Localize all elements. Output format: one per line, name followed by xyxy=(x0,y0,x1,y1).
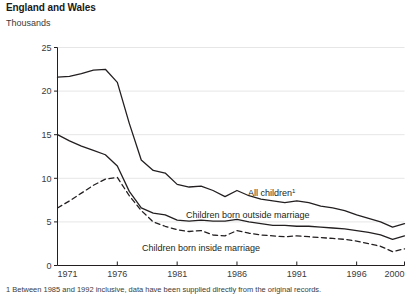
chart-footnote: 1 Between 1985 and 1992 inclusive, data … xyxy=(6,285,419,294)
series-label-all-children: All children1 xyxy=(248,188,296,199)
y-axis-tick-label: 10 xyxy=(41,174,51,184)
y-axis-tick-label: 25 xyxy=(41,43,51,53)
x-axis-tick-labels: 1971197619811986199119962000 xyxy=(58,269,405,279)
series-inline-labels: All children1Children born outside marri… xyxy=(142,188,310,254)
x-axis-tick-label: 1991 xyxy=(287,269,307,279)
x-axis-tick-label: 1976 xyxy=(107,269,127,279)
series-line-solid xyxy=(58,69,405,227)
y-axis-tick-label: 0 xyxy=(46,261,51,271)
x-axis-tick-label: 1971 xyxy=(58,269,78,279)
x-axis-tick-label: 1996 xyxy=(347,269,367,279)
y-axis-tick-label: 20 xyxy=(41,86,51,96)
series-lines xyxy=(58,69,405,251)
series-label-inside-marriage: Children born inside marriage xyxy=(142,243,260,253)
x-axis-tick-label: 2000 xyxy=(384,269,404,279)
y-axis-tick-label: 5 xyxy=(46,217,51,227)
series-line-solid xyxy=(58,135,405,240)
x-axis-tick-label: 1981 xyxy=(167,269,187,279)
y-axis-tick-label: 15 xyxy=(41,130,51,140)
series-label-outside-marriage: Children born outside marriage xyxy=(186,210,310,220)
x-axis-tick-label: 1986 xyxy=(227,269,247,279)
y-axis-tick-labels: 0510152025 xyxy=(41,43,51,271)
